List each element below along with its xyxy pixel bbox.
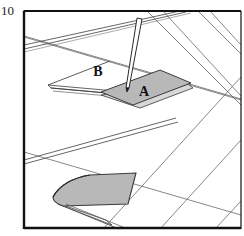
label-region-a: A [139,84,150,99]
label-region-b: B [93,64,102,79]
figure-page: 10 [0,0,244,236]
figure-illustration: B A [0,0,244,236]
